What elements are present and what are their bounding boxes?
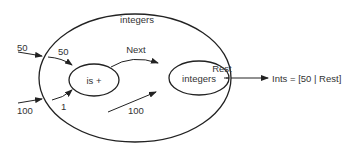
inner-input-label-100: 100: [128, 105, 144, 116]
plus-node-label: is +: [86, 75, 102, 86]
inner-input-arrow-1: [52, 90, 72, 100]
input-arrow-100: [18, 99, 42, 103]
outer-component-label: integers: [120, 14, 154, 25]
output-label: Ints = [50 | Rest]: [272, 73, 341, 84]
input-label-50: 50: [17, 42, 28, 53]
next-edge-label: Next: [126, 44, 146, 55]
integers-node-label: integers: [182, 73, 216, 84]
inner-input-arrow-50: [48, 57, 72, 65]
integers-diagram: integers 50 100 50 1 is + Next integers …: [0, 0, 354, 149]
inner-input-label-50: 50: [58, 46, 69, 57]
rest-edge-label: Rest: [212, 63, 232, 74]
input-label-100: 100: [17, 105, 33, 116]
next-edge: [111, 59, 158, 67]
inner-input-label-1: 1: [61, 101, 66, 112]
